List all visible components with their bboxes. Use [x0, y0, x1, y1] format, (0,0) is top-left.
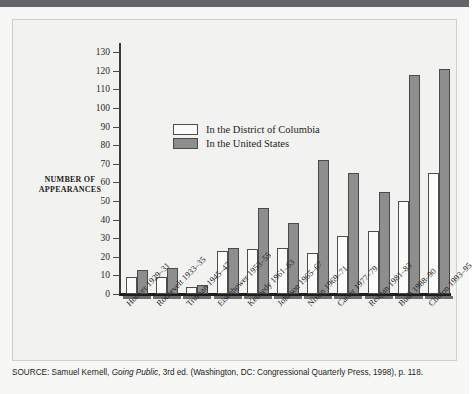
y-tick-40	[113, 220, 120, 221]
y-tick-10	[113, 275, 120, 276]
y-tick-label-40: 40	[101, 215, 111, 225]
y-tick-60	[113, 182, 120, 183]
y-tick-label-50: 50	[101, 196, 111, 206]
y-tick-120	[113, 71, 120, 72]
legend-label-dc: In the District of Columbia	[206, 124, 320, 135]
chart-legend: In the District of Columbia In the Unite…	[173, 124, 320, 152]
y-tick-130	[113, 52, 120, 53]
bar-group	[398, 75, 420, 294]
legend-swatch-us	[173, 138, 198, 149]
scanned-sheet: NUMBER OF APPEARANCES 010203040506070809…	[0, 7, 469, 394]
y-tick-label-0: 0	[105, 289, 110, 299]
y-tick-80	[113, 145, 120, 146]
y-tick-90	[113, 127, 120, 128]
y-tick-110	[113, 89, 120, 90]
source-author: Samuel Kernell,	[49, 368, 111, 377]
bar-us	[439, 69, 450, 294]
legend-swatch-dc	[173, 124, 198, 135]
y-tick-label-110: 110	[96, 84, 110, 94]
source-rest: , 3rd ed. (Washington, DC: Congressional…	[158, 368, 423, 377]
y-axis-title-line2: APPEARANCES	[31, 185, 109, 195]
y-tick-label-30: 30	[101, 233, 111, 243]
y-tick-label-130: 130	[96, 47, 110, 57]
y-tick-0	[113, 294, 120, 295]
y-tick-100	[113, 108, 120, 109]
chart-panel: NUMBER OF APPEARANCES 010203040506070809…	[12, 19, 457, 361]
bar-us	[348, 173, 359, 294]
legend-label-us: In the United States	[206, 138, 289, 149]
y-tick-30	[113, 238, 120, 239]
bar-group	[428, 69, 450, 294]
plot-area: 0102030405060708090100110120130 Hoover 1…	[119, 43, 451, 294]
y-tick-50	[113, 201, 120, 202]
legend-item-dc: In the District of Columbia	[173, 124, 320, 135]
y-tick-label-100: 100	[96, 103, 110, 113]
y-tick-label-60: 60	[101, 177, 111, 187]
y-tick-label-20: 20	[101, 252, 111, 262]
y-tick-20	[113, 257, 120, 258]
y-axis-title: NUMBER OF APPEARANCES	[31, 175, 109, 195]
y-tick-label-90: 90	[101, 122, 111, 132]
y-axis-title-line1: NUMBER OF	[31, 175, 109, 185]
source-title: Going Public	[112, 368, 158, 377]
y-tick-label-10: 10	[101, 270, 111, 280]
legend-item-us: In the United States	[173, 138, 320, 149]
source-note: SOURCE: Samuel Kernell, Going Public, 3r…	[12, 368, 459, 377]
bar-us	[409, 75, 420, 294]
scan-top-band	[0, 0, 469, 7]
y-tick-label-80: 80	[101, 140, 111, 150]
y-tick-70	[113, 164, 120, 165]
bar-dc	[368, 231, 379, 294]
source-label: SOURCE:	[12, 368, 49, 377]
y-tick-label-70: 70	[101, 159, 111, 169]
y-tick-label-120: 120	[96, 66, 110, 76]
bar-us	[318, 160, 329, 294]
